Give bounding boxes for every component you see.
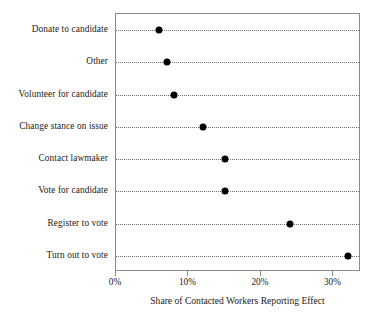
data-point	[344, 252, 351, 259]
y-axis-label: Other	[86, 56, 108, 66]
gridline-row	[116, 224, 359, 226]
data-point	[286, 220, 293, 227]
gridline-row	[116, 30, 359, 32]
gridline-row	[116, 159, 359, 161]
x-axis-title: Share of Contacted Workers Reporting Eff…	[115, 295, 360, 306]
x-axis-tick-label: 0%	[109, 277, 121, 287]
y-axis-label: Vote for candidate	[38, 185, 108, 195]
gridline-row	[116, 256, 359, 258]
data-point	[221, 156, 228, 163]
x-axis-tick-mark	[260, 271, 261, 276]
data-point	[221, 188, 228, 195]
data-point	[199, 123, 206, 130]
x-axis-tick-mark	[115, 271, 116, 276]
gridline-row	[116, 95, 359, 97]
gridline-row	[116, 191, 359, 193]
x-axis-tick-label: 20%	[251, 277, 268, 287]
y-axis-label: Turn out to vote	[47, 250, 108, 260]
gridline-row	[116, 127, 359, 129]
y-axis-label: Donate to candidate	[32, 24, 108, 34]
y-axis-label: Contact lawmaker	[39, 153, 109, 163]
dot-plot-figure: Donate to candidateOtherVolunteer for ca…	[0, 0, 374, 320]
data-point	[163, 59, 170, 66]
x-axis-tick-label: 30%	[324, 277, 341, 287]
data-point	[170, 91, 177, 98]
data-point	[156, 27, 163, 34]
gridline-row	[116, 62, 359, 64]
x-axis-tick-mark	[187, 271, 188, 276]
plot-area	[115, 13, 360, 271]
x-axis-tick-label: 10%	[179, 277, 196, 287]
y-axis-label: Change stance on issue	[19, 121, 108, 131]
y-axis-label: Register to vote	[48, 218, 108, 228]
x-axis-tick-mark	[332, 271, 333, 276]
y-axis-label: Volunteer for candidate	[19, 89, 108, 99]
